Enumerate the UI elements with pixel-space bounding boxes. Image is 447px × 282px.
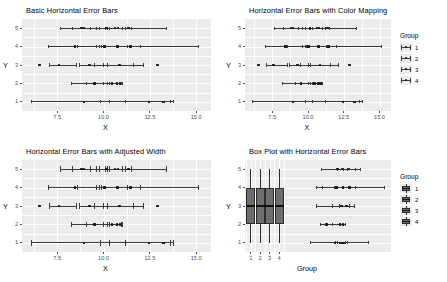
error-bar-cap [198, 185, 199, 191]
error-bar-cap [60, 27, 61, 30]
data-point [103, 186, 106, 189]
y-tick-mark [243, 206, 245, 207]
error-bar-cap [100, 100, 101, 103]
panel-title: Box Plot with Horizontal Error Bars [249, 147, 366, 156]
y-tick-mark [20, 206, 22, 207]
x-tick-mark [379, 111, 380, 113]
error-bar-cap [96, 45, 97, 48]
error-bar-cap [345, 223, 346, 226]
error-bar-cap [125, 100, 126, 103]
error-bar-cap [103, 82, 104, 85]
data-point [129, 186, 132, 189]
error-bar-cap [283, 27, 284, 30]
error-bar-cap [133, 203, 134, 209]
error-bar [31, 242, 109, 243]
y-tick-label: 1 [4, 98, 18, 104]
y-tick-label: 2 [4, 221, 18, 227]
x-axis-title: Group [223, 264, 391, 273]
error-bar-cap [310, 63, 311, 66]
panel-title: Horizontal Error Bars with Color Mapping [249, 6, 387, 15]
x-tick-mark [196, 111, 197, 113]
error-bar-cap [109, 222, 110, 228]
error-bar-cap [316, 186, 317, 189]
error-bar-cap [198, 45, 199, 48]
error-bar-cap [133, 63, 134, 66]
error-bar-cap [49, 63, 50, 66]
error-bar-cap [298, 27, 299, 30]
error-bar [323, 187, 385, 188]
error-bar-cap [316, 204, 317, 207]
error-bar-cap [305, 100, 306, 103]
data-point [129, 45, 132, 48]
error-bar-cap [287, 63, 288, 66]
y-tick-label: 2 [227, 221, 241, 227]
legend-key-swatch [400, 195, 412, 204]
y-tick-label: 1 [227, 239, 241, 245]
data-point [272, 64, 275, 67]
legend-item-4[interactable]: 4 [400, 76, 418, 85]
legend-item-3[interactable]: 3 [400, 206, 418, 215]
legend-item-1[interactable]: 1 [400, 43, 418, 52]
legend-key-swatch [400, 43, 412, 52]
y-tick-mark [20, 242, 22, 243]
error-bar-cap [90, 166, 91, 172]
x-tick-label: 7.5 [258, 114, 286, 120]
error-bar-cap [300, 63, 301, 66]
x-tick-label: 10.0 [294, 114, 322, 120]
error-bar-cap [125, 240, 126, 246]
boxplot-median [275, 205, 284, 206]
error-bar-cap [362, 100, 363, 103]
y-tick-label: 4 [4, 43, 18, 49]
data-point [348, 64, 351, 67]
y-tick-mark [20, 224, 22, 225]
data-point [74, 186, 77, 189]
grid-line-y [245, 224, 391, 225]
y-tick-label: 5 [4, 166, 18, 172]
data-point [339, 242, 342, 245]
data-point [313, 82, 316, 85]
x-tick-mark [149, 111, 150, 113]
y-tick-label: 2 [4, 80, 18, 86]
error-bar-cap [330, 63, 331, 66]
data-point [74, 45, 77, 48]
x-tick-label: 10.0 [90, 255, 118, 261]
y-tick-mark [243, 242, 245, 243]
error-bar-cap [332, 223, 333, 226]
legend-item-1[interactable]: 1 [400, 184, 418, 193]
data-point [353, 101, 356, 104]
error-bar-cap [325, 100, 326, 103]
data-point [88, 64, 91, 67]
data-point [117, 168, 120, 171]
legend-label: 2 [415, 56, 418, 62]
plot-area [22, 160, 211, 252]
data-point [156, 64, 159, 67]
y-tick-label: 5 [227, 25, 241, 31]
error-bar-cap [31, 240, 32, 246]
x-tick-mark [250, 252, 251, 254]
plot-area [22, 19, 211, 111]
data-point [342, 242, 345, 245]
error-bar [96, 187, 198, 188]
error-bar [266, 65, 287, 66]
data-point [111, 223, 114, 226]
legend-key-swatch [400, 76, 412, 85]
error-bar-cap [322, 186, 323, 189]
error-bar-cap [381, 45, 382, 48]
data-point [116, 82, 119, 85]
legend-item-2[interactable]: 2 [400, 195, 418, 204]
error-bar-cap [107, 203, 108, 209]
error-bar-cap [310, 241, 311, 244]
x-tick-label: 15.0 [366, 114, 394, 120]
data-point [148, 101, 151, 104]
x-tick-label: 12.5 [330, 114, 358, 120]
y-tick-label: 5 [227, 166, 241, 172]
error-bar-cap [287, 45, 288, 48]
legend-item-3[interactable]: 3 [400, 65, 418, 74]
legend-item-2[interactable]: 2 [400, 54, 418, 63]
error-bar-cap [355, 168, 356, 171]
boxplot-median [265, 205, 274, 206]
legend-key-swatch [400, 206, 412, 215]
x-tick-mark [149, 252, 150, 254]
x-tick-mark [269, 252, 270, 254]
legend-item-4[interactable]: 4 [400, 217, 418, 226]
